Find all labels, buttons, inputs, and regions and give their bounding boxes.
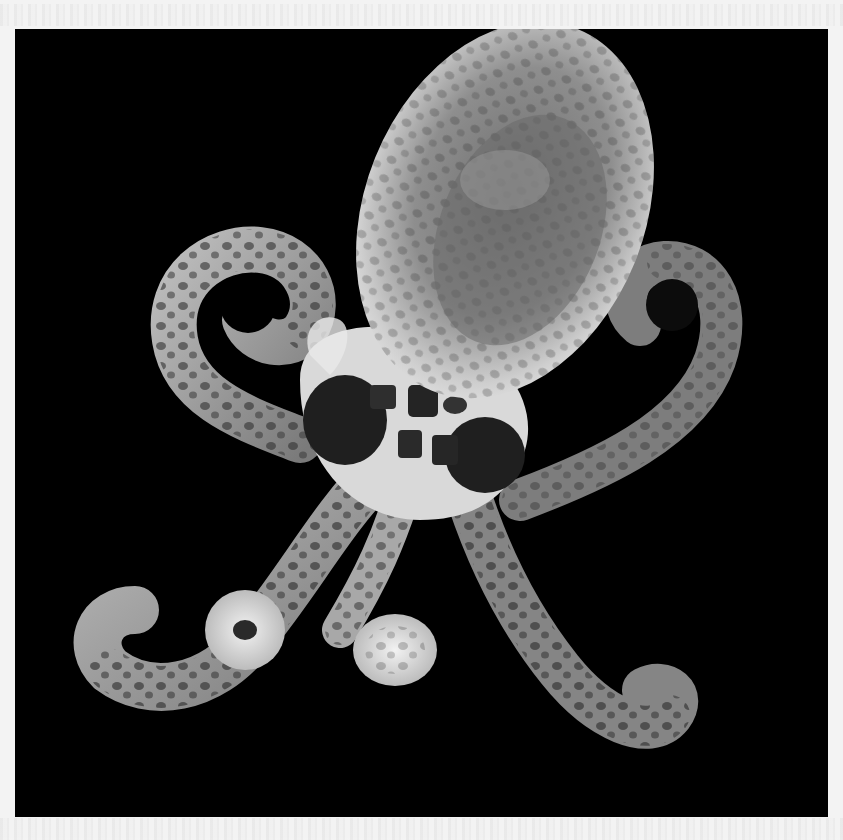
arm-upper-left: [174, 250, 313, 440]
octopus-illustration: [15, 29, 828, 817]
arm-lower-center-curl: [353, 614, 437, 686]
faint-bleed-through-text-bottom: [0, 818, 843, 840]
arm-lower-left: [98, 470, 380, 687]
octopus-photo: Grayscale photograph of a translucent sp…: [15, 29, 828, 817]
arm-lower-right: [470, 500, 675, 726]
faint-bleed-through-text-top: [0, 4, 843, 26]
